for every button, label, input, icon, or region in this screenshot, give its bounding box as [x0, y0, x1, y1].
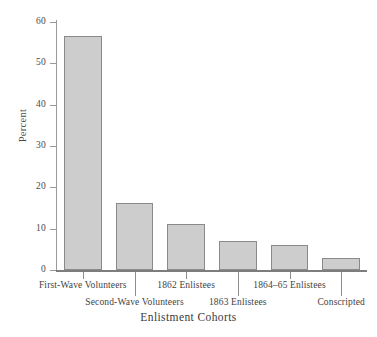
y-axis-tick-label-text: 20 — [6, 181, 46, 191]
x-axis-leader-line — [238, 272, 239, 296]
x-axis-title: Enlistment Cohorts — [0, 311, 377, 323]
x-axis-category-label: Conscripted — [317, 297, 365, 307]
x-axis-category-label: 1862 Enlistees — [157, 280, 215, 290]
y-axis-tick — [50, 146, 57, 147]
y-axis-tick-label-text: 40 — [6, 99, 46, 109]
bar — [271, 245, 309, 270]
x-axis-category-label: First-Wave Volunteers — [39, 280, 127, 290]
x-axis-line — [56, 270, 367, 272]
bar — [167, 224, 205, 270]
x-axis-leader-line — [341, 272, 342, 296]
y-axis-tick — [50, 63, 57, 64]
x-axis-category-label: 1864–65 Enlistees — [253, 280, 325, 290]
y-axis-tick-label: 50 — [0, 57, 46, 69]
y-axis-tick — [50, 22, 57, 23]
y-axis-tick — [50, 229, 57, 230]
y-axis-tick-label-text: 0 — [6, 264, 46, 274]
x-axis-leader-line — [290, 272, 291, 279]
y-axis-tick-label-text: 10 — [6, 223, 46, 233]
y-axis-tick-label: 30 — [0, 140, 46, 152]
bar — [116, 203, 154, 270]
x-axis-category-label: 1863 Enlistees — [209, 297, 267, 307]
y-axis-tick-label: 20 — [0, 181, 46, 193]
bar — [219, 241, 257, 270]
bar-chart: Percent 0102030405060 First-Wave Volunte… — [0, 0, 377, 337]
y-axis-tick-label: 10 — [0, 223, 46, 235]
bar — [64, 36, 102, 270]
y-axis-tick-label: 60 — [0, 16, 46, 28]
x-axis-leader-line — [186, 272, 187, 279]
y-axis-tick-label: 0 — [0, 264, 46, 276]
y-axis-tick-label-text: 60 — [6, 16, 46, 26]
y-axis-title: Percent — [17, 86, 28, 166]
y-axis-tick — [50, 187, 57, 188]
x-axis-leader-line — [83, 272, 84, 279]
y-axis-tick — [50, 105, 57, 106]
x-axis-leader-line — [135, 272, 136, 296]
y-axis-tick-label-text: 30 — [6, 140, 46, 150]
x-axis-category-label: Second-Wave Volunteers — [85, 297, 183, 307]
y-axis-tick-label: 40 — [0, 99, 46, 111]
y-axis-tick-label-text: 50 — [6, 57, 46, 67]
bar — [322, 258, 360, 270]
